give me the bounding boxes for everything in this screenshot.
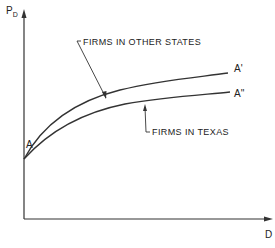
curve-firms-in-texas — [24, 92, 230, 159]
x-axis-label: D — [265, 229, 272, 240]
diagram: PD D A A' A'' FIRMS IN OTHER STATES FIRM… — [0, 0, 275, 248]
curve-firms-in-other-states — [24, 73, 228, 159]
y-axis-arrow-icon — [22, 9, 27, 18]
leader-other-states — [77, 41, 106, 98]
point-a-double-prime-label: A'' — [234, 88, 245, 99]
label-firms-in-texas: FIRMS IN TEXAS — [152, 127, 229, 137]
y-axis-label: PD — [6, 5, 18, 18]
x-axis-arrow-icon — [264, 217, 273, 222]
point-a-prime-label: A' — [234, 63, 243, 74]
label-firms-in-other-states: FIRMS IN OTHER STATES — [83, 37, 201, 47]
leader-arrow-texas-icon — [143, 104, 147, 111]
point-a-label: A — [26, 139, 33, 150]
